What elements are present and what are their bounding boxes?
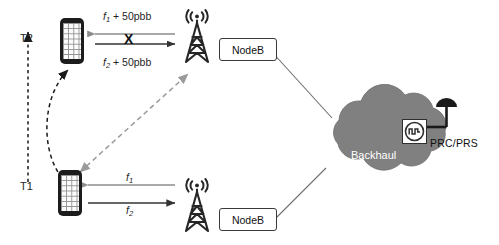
blocked-link-x-marker: X — [124, 31, 133, 47]
smartphone-t1[interactable] — [58, 170, 82, 216]
phone-screen — [63, 23, 81, 59]
measurement-link-arrow — [80, 74, 188, 172]
blocked-link-arrows — [95, 34, 175, 44]
time-label-t2: T2 — [20, 33, 33, 44]
nodeb-box-bottom[interactable]: NodeB — [219, 208, 277, 231]
active-downlink-label: f1 — [126, 172, 133, 185]
smartphone-t2[interactable] — [60, 18, 84, 64]
nodeb-box-top[interactable]: NodeB — [219, 38, 277, 61]
handover-motion-arrow — [47, 70, 68, 178]
nodeb-label: NodeB — [232, 214, 264, 226]
nodeb-label: NodeB — [232, 44, 264, 56]
prc-prs-icon-overlay — [402, 119, 427, 144]
prc-prs-label: PRC/PRS — [430, 138, 478, 149]
phone-screen — [61, 175, 79, 211]
time-label-t1: T1 — [20, 181, 33, 192]
blocked-downlink-label: f1 + 50pbb — [103, 11, 151, 24]
backhaul-connector-lines — [272, 52, 332, 222]
active-uplink-label: f2 — [126, 205, 133, 218]
cell-tower-bottom-icon — [186, 179, 208, 231]
blocked-uplink-label: f2 + 50pbb — [103, 57, 151, 70]
cell-tower-top-icon — [186, 10, 208, 62]
active-link-arrows — [88, 185, 175, 203]
backhaul-cloud-label: Backhaul — [351, 150, 396, 161]
